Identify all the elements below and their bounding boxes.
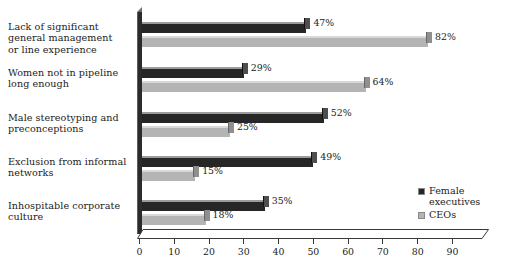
bar-end-cap	[304, 18, 310, 29]
category-label: Inhospitable corporate culture	[8, 200, 136, 223]
legend: Female executives CEOs	[418, 186, 504, 224]
category-label: Women not in pipeline long enough	[8, 67, 136, 90]
x-axis-tick	[382, 239, 383, 244]
bar-top-highlight	[142, 112, 324, 114]
x-axis-tick-label: 70	[377, 246, 389, 257]
bar-end-cap	[263, 196, 269, 207]
bar-end-cap	[242, 63, 248, 74]
x-axis-tick-label: 60	[342, 246, 354, 257]
bar	[142, 22, 310, 33]
bar-chart: Lack of significant general management o…	[0, 0, 505, 266]
legend-label: Female executives	[429, 186, 480, 207]
x-axis-floor	[137, 229, 489, 239]
bar	[142, 81, 370, 92]
bar-top-highlight	[142, 67, 244, 69]
bar	[142, 170, 199, 181]
bar	[142, 126, 234, 137]
bar-value-label: 25%	[237, 122, 258, 132]
x-axis-tick	[348, 239, 349, 244]
bar-value-label: 52%	[331, 108, 352, 118]
bar-value-label: 18%	[213, 210, 234, 220]
bar-value-label: 15%	[202, 166, 223, 176]
x-axis-tick-label: 80	[412, 246, 424, 257]
bar	[142, 67, 248, 78]
x-axis-tick	[417, 239, 418, 244]
bar	[142, 214, 210, 225]
x-axis-tick	[313, 239, 314, 244]
bar-value-label: 47%	[313, 18, 334, 28]
bar-end-cap	[204, 210, 210, 221]
bar-top-highlight	[142, 200, 265, 202]
x-axis-tick-label: 0	[137, 246, 143, 257]
bar	[142, 36, 432, 47]
category-label: Male stereotyping and preconceptions	[8, 112, 136, 135]
legend-label: CEOs	[429, 210, 456, 221]
category-label: Exclusion from informal networks	[8, 156, 136, 179]
bar-top-highlight	[142, 126, 230, 128]
bar-end-cap	[311, 152, 317, 163]
x-axis-tick-label: 90	[446, 246, 458, 257]
bar-value-label: 35%	[272, 196, 293, 206]
bar-top-highlight	[142, 22, 306, 24]
bar	[142, 112, 328, 123]
legend-swatch-icon	[418, 212, 425, 219]
legend-item-ceos: CEOs	[418, 210, 504, 221]
bar	[142, 156, 317, 167]
x-axis-tick	[139, 239, 140, 244]
category-label: Lack of significant general management o…	[8, 21, 136, 55]
bar-value-label: 82%	[435, 32, 456, 42]
x-axis-tick	[174, 239, 175, 244]
bar-end-cap	[322, 108, 328, 119]
legend-item-female-executives: Female executives	[418, 186, 504, 207]
bar-value-label: 49%	[320, 152, 341, 162]
bar-end-cap	[193, 166, 199, 177]
x-axis-tick	[452, 239, 453, 244]
bar-top-highlight	[142, 214, 206, 216]
bar-end-cap	[426, 32, 432, 43]
bar-value-label: 64%	[373, 77, 394, 87]
bar-top-highlight	[142, 156, 313, 158]
bar-top-highlight	[142, 170, 195, 172]
y-axis-spine-highlight	[137, 12, 138, 234]
bar-end-cap	[228, 122, 234, 133]
bar-top-highlight	[142, 81, 366, 83]
x-axis-tick	[278, 239, 279, 244]
x-axis-tick	[243, 239, 244, 244]
x-axis-tick-label: 40	[273, 246, 285, 257]
bar-top-highlight	[142, 36, 428, 38]
x-axis-tick-label: 50	[307, 246, 319, 257]
x-axis-tick	[209, 239, 210, 244]
x-axis-tick-label: 10	[168, 246, 180, 257]
bar-end-cap	[364, 77, 370, 88]
x-axis-tick-label: 30	[238, 246, 250, 257]
legend-swatch-icon	[418, 188, 425, 195]
x-axis-tick-label: 20	[203, 246, 215, 257]
bar-value-label: 29%	[251, 63, 272, 73]
